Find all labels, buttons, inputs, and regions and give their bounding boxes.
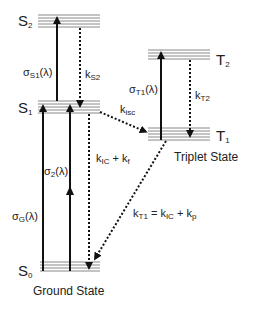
label-sigma-g: σG(λ) <box>12 210 38 224</box>
label-t2: T2 <box>216 51 230 69</box>
label-sigma-2: σ2(λ) <box>44 165 68 179</box>
label-k-isc: kisc <box>120 103 135 117</box>
label-s2: S2 <box>18 12 32 30</box>
label-sigma-s1: σS1(λ) <box>23 66 52 80</box>
label-t1: T1 <box>216 127 230 145</box>
label-k-t2: kT2 <box>195 89 210 103</box>
label-k-t1: kT1 = kIC + kp <box>133 207 196 221</box>
level-t2 <box>148 50 210 59</box>
label-s0: S0 <box>18 262 32 280</box>
level-s2 <box>38 15 100 27</box>
arrow-sigma-2-mid-head <box>66 186 74 195</box>
label-s1: S1 <box>18 99 32 117</box>
label-ground-state: Ground State <box>33 284 104 298</box>
label-k-ic-f: kIC + kf <box>96 152 130 166</box>
level-t1 <box>148 128 210 140</box>
label-triplet-state: Triplet State <box>174 150 238 164</box>
label-k-s2: kS2 <box>85 68 100 82</box>
label-sigma-t1: σT1(λ) <box>129 83 158 97</box>
